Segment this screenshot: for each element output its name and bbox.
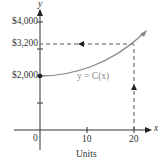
y-axis-letter: y — [38, 0, 42, 10]
x-tick-label-0: 0 — [33, 134, 38, 144]
y-tick-label-4000: $4,000 — [12, 17, 38, 27]
x-axis-letter: x — [154, 124, 158, 134]
curve-label: y = C(x) — [77, 72, 109, 82]
y-tick-label-3200: $3,200 — [12, 39, 38, 49]
x-tick-label-20: 20 — [129, 135, 139, 145]
left-arrow-icon — [78, 41, 84, 47]
y-tick-label-2000: $2,000 — [12, 71, 38, 81]
x-axis-arrow-icon — [145, 127, 152, 133]
up-arrow-icon — [131, 84, 137, 90]
y-intercept-dot — [38, 74, 43, 79]
curve-c-of-x — [40, 32, 145, 76]
x-tick-label-10: 10 — [82, 135, 92, 145]
y-axis-arrow-icon — [37, 9, 43, 16]
x-axis-title: Units — [76, 150, 97, 160]
